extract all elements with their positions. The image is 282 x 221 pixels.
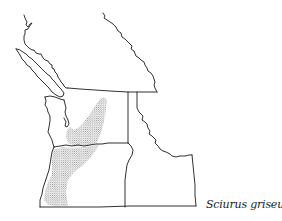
idaho-montana-border [137, 92, 192, 157]
bc-alberta-border [103, 13, 157, 92]
idaho-wyoming-border [192, 155, 196, 206]
washington-coastline [45, 97, 54, 147]
vancouver-island [16, 49, 64, 97]
puget-sound [64, 100, 69, 127]
canada-us-border [68, 88, 157, 92]
range-map [0, 0, 282, 221]
southern-border [40, 206, 196, 207]
bc-coastline [24, 15, 68, 88]
range-area-washington [66, 97, 107, 146]
range-area-oregon [44, 144, 99, 206]
species-label: Sciurus griseus [206, 198, 282, 211]
oregon-idaho-border [125, 143, 133, 207]
